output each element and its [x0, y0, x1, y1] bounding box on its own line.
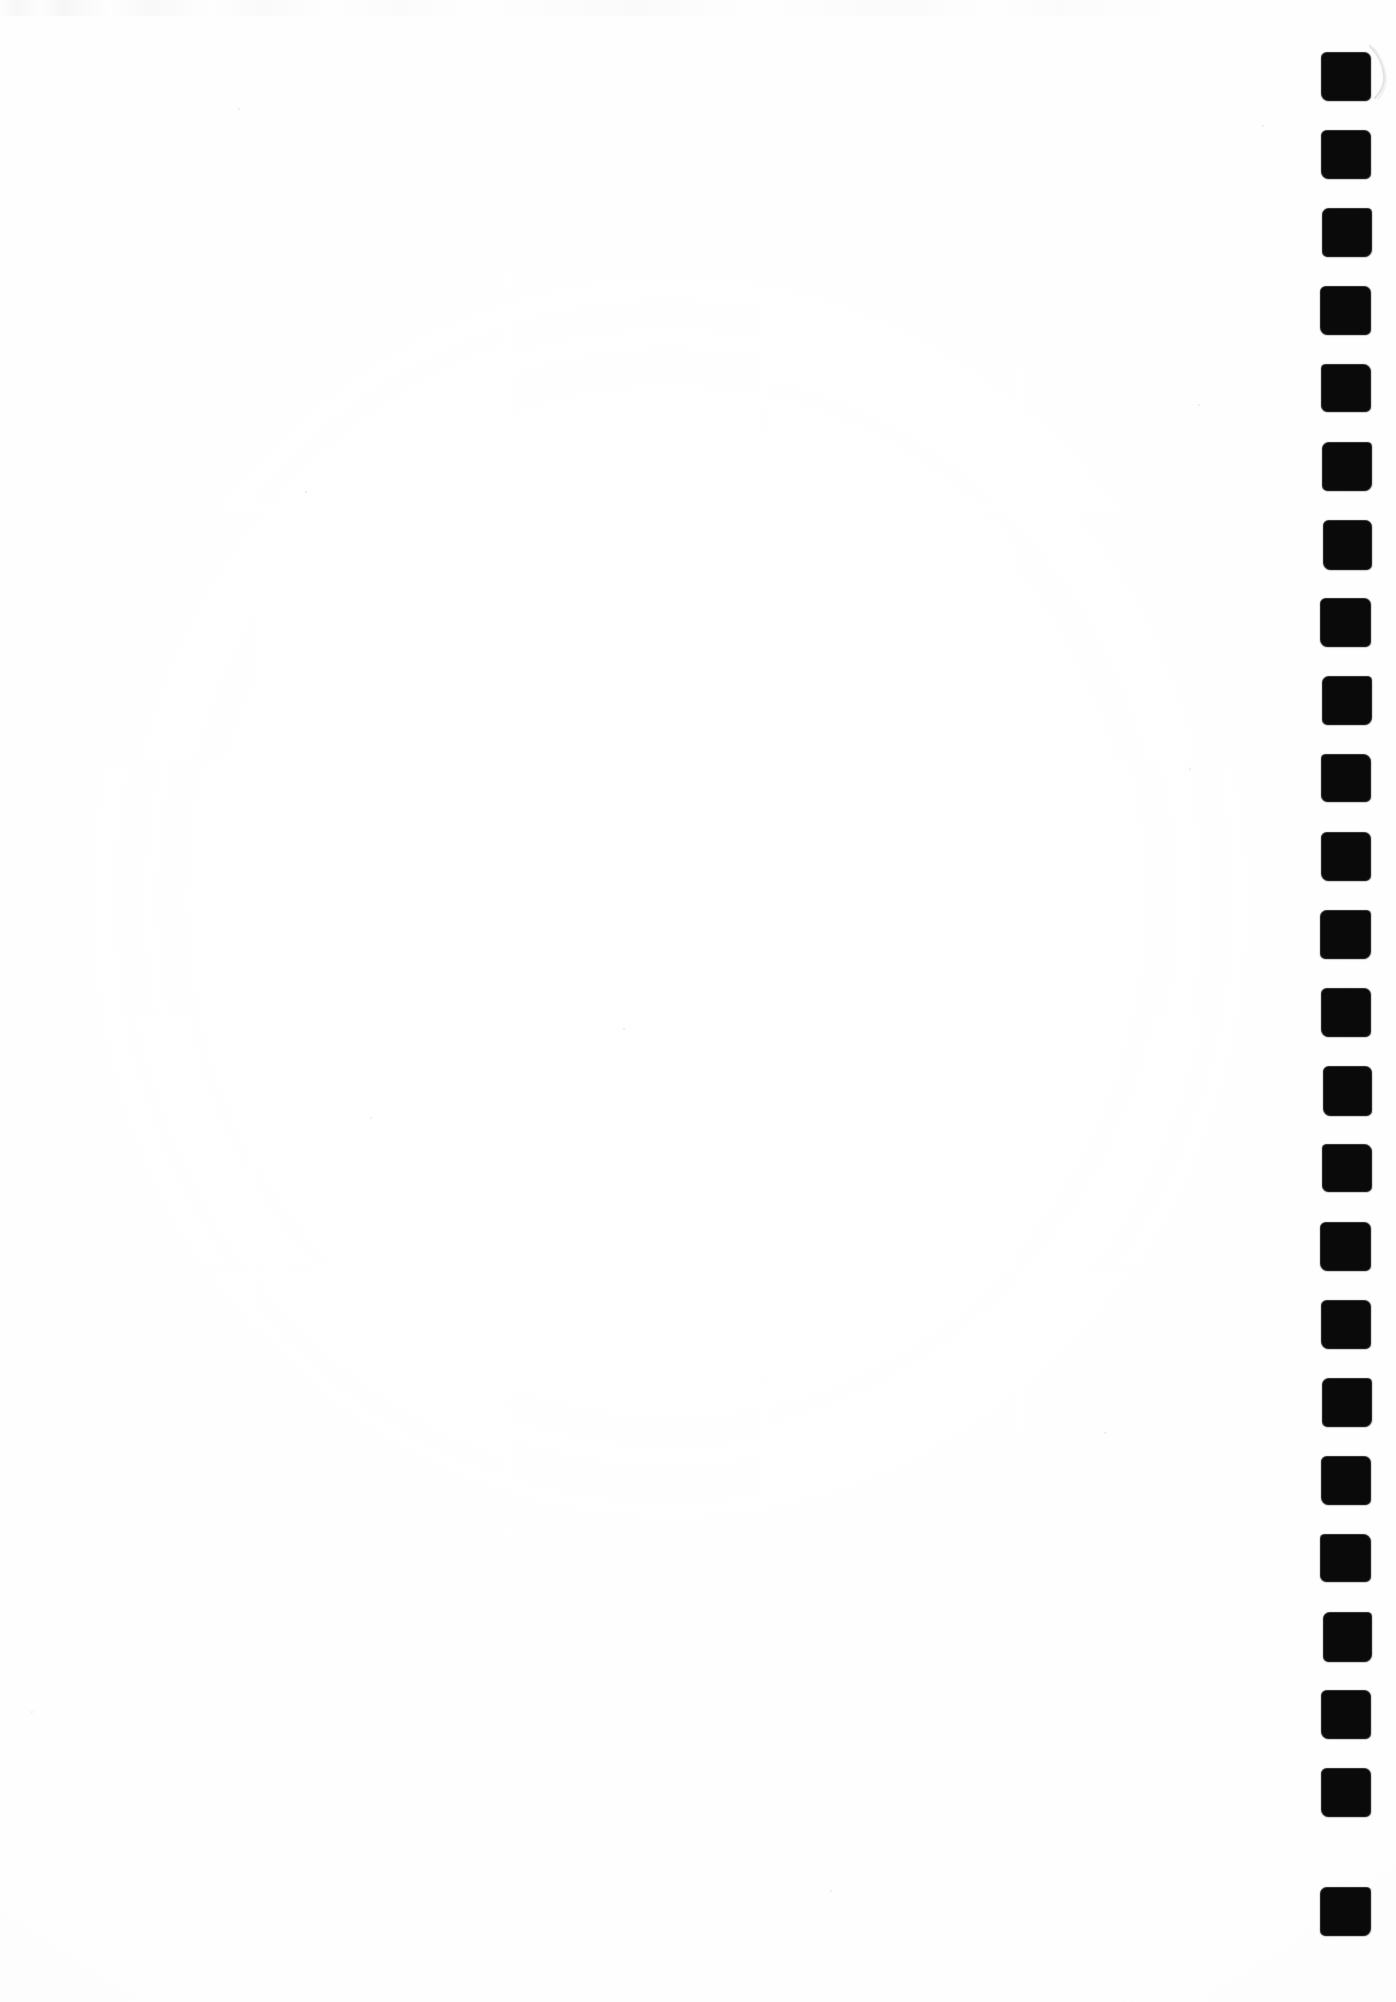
paper-surface [0, 0, 1396, 2002]
index-mark [1321, 1223, 1370, 1270]
index-mark [1321, 287, 1370, 334]
index-mark [1321, 599, 1370, 646]
top-edge-scan-noise [0, 0, 1396, 16]
index-mark [1321, 1888, 1370, 1935]
index-mark [1322, 1457, 1370, 1504]
paper-speck [31, 1711, 33, 1713]
paper-speck [1189, 768, 1191, 770]
index-mark [1323, 209, 1371, 256]
paper-speck [305, 491, 307, 493]
paper-speck [238, 108, 240, 110]
index-mark [1323, 1379, 1371, 1426]
scanned-page [0, 0, 1396, 2002]
index-mark [1322, 1691, 1370, 1738]
index-mark [1322, 755, 1370, 801]
index-mark [1322, 53, 1370, 100]
index-mark [1321, 911, 1370, 958]
index-mark [1322, 1769, 1370, 1816]
paper-speck [370, 1117, 372, 1119]
index-mark [1322, 989, 1370, 1036]
index-mark [1322, 365, 1370, 411]
index-mark [1324, 1613, 1371, 1661]
paper-speck [1262, 125, 1264, 127]
index-mark [1322, 833, 1370, 880]
index-mark [1322, 131, 1370, 178]
index-mark [1324, 1067, 1371, 1115]
index-mark [1323, 1145, 1371, 1191]
index-mark [1324, 521, 1371, 569]
right-margin-index-marks [1318, 0, 1396, 2002]
index-mark [1321, 1535, 1370, 1581]
paper-speck [830, 1890, 832, 1892]
paper-speck [1104, 1432, 1106, 1434]
paper-speck [623, 1028, 625, 1030]
paper-speck [1198, 404, 1200, 406]
index-mark [1323, 677, 1371, 724]
index-mark [1323, 443, 1371, 490]
index-mark [1322, 1301, 1370, 1348]
